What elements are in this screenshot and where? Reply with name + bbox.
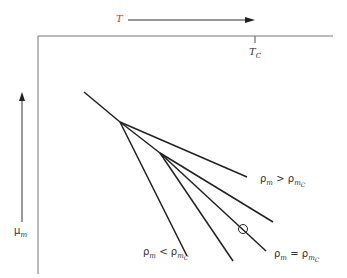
up-arrow-icon — [19, 92, 25, 101]
label-rho-greater: ρm > ρmC — [260, 173, 305, 188]
curve-rho-greater — [120, 122, 247, 177]
label-rho-equal: ρm = ρmC — [274, 248, 319, 263]
mu-label: μm — [14, 225, 27, 239]
right-arrow-icon — [245, 17, 255, 23]
curve-rho-less — [120, 122, 187, 256]
curve-rho-equal — [160, 153, 266, 251]
tc-label: TC — [249, 46, 261, 60]
temperature-label: T — [116, 13, 123, 24]
label-rho-less: ρm < ρmC — [143, 246, 188, 261]
coexistence-line — [84, 92, 120, 122]
curve-branch-lower — [160, 153, 233, 261]
phase-diagram-canvas — [0, 0, 347, 278]
